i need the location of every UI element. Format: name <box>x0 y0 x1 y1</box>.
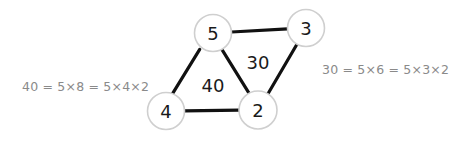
node-two[interactable]: 2 <box>239 91 277 129</box>
node-three-label: 3 <box>300 18 311 39</box>
edge-five-three <box>232 29 288 32</box>
edge-label-thirty: 30 <box>247 52 270 73</box>
node-five-label: 5 <box>207 23 218 44</box>
annotation-right-factorization: 30 = 5×6 = 5×3×2 <box>322 62 449 77</box>
edge-five-four <box>172 49 200 94</box>
diagram-canvas: 40 30 5 3 4 2 40 = 5×8 = 5×4×2 30 = 5×6 … <box>0 0 461 142</box>
node-three[interactable]: 3 <box>288 10 325 47</box>
edge-label-forty: 40 <box>202 75 225 96</box>
edge-four-two <box>185 110 240 111</box>
node-five[interactable]: 5 <box>195 15 232 52</box>
node-four-label: 4 <box>160 101 171 122</box>
edges-group <box>172 29 297 111</box>
node-four[interactable]: 4 <box>148 93 185 130</box>
node-two-label: 2 <box>252 100 263 121</box>
annotation-left-factorization: 40 = 5×8 = 5×4×2 <box>22 79 149 94</box>
edge-three-two <box>268 44 297 94</box>
edge-five-two <box>222 49 250 94</box>
